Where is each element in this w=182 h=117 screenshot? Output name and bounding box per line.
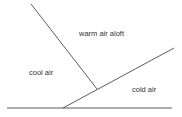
cold-front-boundary (63, 48, 174, 108)
cool-air-label: cool air (29, 68, 53, 77)
cold-air-label: cold air (132, 85, 156, 94)
warm-air-label: warm air aloft (79, 29, 124, 38)
front-lines (0, 0, 182, 117)
